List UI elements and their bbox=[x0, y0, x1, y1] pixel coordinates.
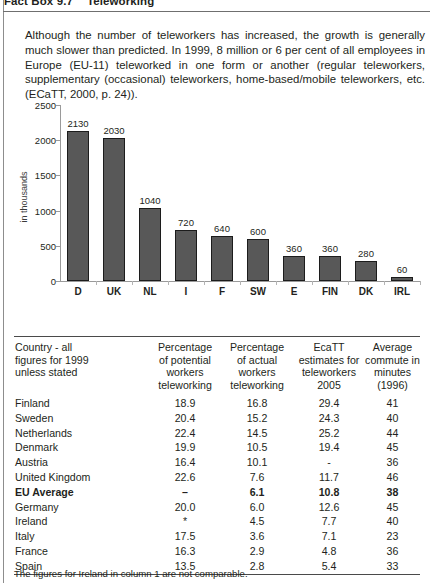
factbox-label: Fact Box 9.7 bbox=[4, 0, 73, 7]
bar-group: 280 bbox=[348, 105, 384, 281]
bar-dk bbox=[355, 261, 377, 281]
table-row: United Kingdom22.67.611.746 bbox=[14, 470, 420, 485]
bar-value-label: 640 bbox=[204, 223, 240, 234]
estimate-2005: 5.4 bbox=[293, 559, 365, 574]
avg-commute: 46 bbox=[365, 470, 420, 485]
avg-commute: 36 bbox=[365, 544, 420, 559]
actual-pct: 7.6 bbox=[221, 470, 293, 485]
col-header-line: (1996) bbox=[365, 379, 420, 392]
bar-value-label: 1040 bbox=[132, 195, 168, 206]
estimate-2005: 10.8 bbox=[293, 485, 365, 500]
bar-value-label: 60 bbox=[384, 264, 420, 275]
avg-commute: 36 bbox=[365, 456, 420, 471]
bar-f bbox=[211, 236, 233, 281]
x-label-fin: FIN bbox=[312, 286, 348, 297]
x-label-f: F bbox=[204, 286, 240, 297]
bar-group: 2030 bbox=[96, 105, 132, 281]
x-axis-tick bbox=[168, 281, 169, 285]
potential-pct: * bbox=[149, 515, 221, 530]
potential-pct: – bbox=[149, 485, 221, 500]
col-header-line: figures for 1999 bbox=[15, 354, 149, 367]
actual-pct: 10.1 bbox=[221, 456, 293, 471]
estimate-2005: 4.8 bbox=[293, 544, 365, 559]
table-row: Sweden20.415.224.340 bbox=[14, 411, 420, 426]
col-header-line: commute in bbox=[365, 354, 420, 367]
x-label-uk: UK bbox=[96, 286, 132, 297]
table-row: EU Average–6.110.838 bbox=[14, 485, 420, 500]
x-axis-tick bbox=[384, 281, 385, 285]
bar-value-label: 600 bbox=[240, 226, 276, 237]
bar-group: 600 bbox=[240, 105, 276, 281]
intro-paragraph: Although the number of teleworkers has i… bbox=[25, 28, 425, 101]
x-label-dk: DK bbox=[348, 286, 384, 297]
y-axis-tick bbox=[56, 105, 60, 106]
table-header-row: Country - allfigures for 1999unless stat… bbox=[14, 337, 420, 396]
actual-pct: 16.8 bbox=[221, 396, 293, 411]
factbox-header: Fact Box 9.7Teleworking bbox=[0, 0, 430, 11]
y-axis-tick bbox=[56, 211, 60, 212]
col-header-line: Country - all bbox=[15, 341, 149, 354]
avg-commute: 38 bbox=[365, 485, 420, 500]
country-name: Austria bbox=[14, 456, 149, 471]
table-row: Denmark19.910.519.445 bbox=[14, 441, 420, 456]
table-col-header-1: Percentageof potentialworkersteleworking bbox=[149, 337, 221, 396]
table-data: Country - allfigures for 1999unless stat… bbox=[14, 337, 420, 574]
estimate-2005: 7.1 bbox=[293, 529, 365, 544]
col-header-line: of potential bbox=[149, 354, 221, 367]
potential-pct: 19.9 bbox=[149, 441, 221, 456]
x-label-sw: SW bbox=[240, 286, 276, 297]
table-header: Country - allfigures for 1999unless stat… bbox=[14, 337, 420, 396]
col-header-line: 2005 bbox=[293, 379, 365, 392]
table-row: Netherlands22.414.525.244 bbox=[14, 426, 420, 441]
plot-area: 21302030104072064060036036028060 bbox=[60, 105, 420, 281]
table-row: Austria16.410.1-36 bbox=[14, 456, 420, 471]
bar-fin bbox=[319, 256, 341, 281]
x-label-d: D bbox=[60, 286, 96, 297]
y-tick-label: 1500 bbox=[35, 170, 56, 181]
table-row: Ireland*4.57.740 bbox=[14, 515, 420, 530]
potential-pct: 22.4 bbox=[149, 426, 221, 441]
estimate-2005: 12.6 bbox=[293, 500, 365, 515]
bar-uk bbox=[103, 138, 125, 281]
bar-value-label: 2130 bbox=[60, 118, 96, 129]
actual-pct: 2.9 bbox=[221, 544, 293, 559]
factbox-title: Fact Box 9.7Teleworking bbox=[4, 0, 154, 7]
bar-group: 640 bbox=[204, 105, 240, 281]
teleworkers-bar-chart: in thousands 05001000150020002500 213020… bbox=[0, 96, 430, 311]
estimate-2005: 29.4 bbox=[293, 396, 365, 411]
x-axis-tick bbox=[420, 281, 421, 285]
y-axis-tick-labels: 05001000150020002500 bbox=[10, 96, 56, 281]
bar-value-label: 360 bbox=[276, 243, 312, 254]
bar-group: 60 bbox=[384, 105, 420, 281]
table-col-header-3: EcaTTestimates forteleworkers2005 bbox=[293, 337, 365, 396]
col-header-line: workers bbox=[149, 366, 221, 379]
col-header-line: of actual bbox=[221, 354, 293, 367]
y-axis-tick bbox=[56, 140, 60, 141]
col-header-line: unless stated bbox=[15, 366, 149, 379]
estimate-2005: - bbox=[293, 456, 365, 471]
header-divider bbox=[3, 11, 430, 12]
y-axis-tick bbox=[56, 175, 60, 176]
bar-group: 360 bbox=[276, 105, 312, 281]
avg-commute: 41 bbox=[365, 396, 420, 411]
estimate-2005: 25.2 bbox=[293, 426, 365, 441]
estimate-2005: 11.7 bbox=[293, 470, 365, 485]
teleworking-table: Country - allfigures for 1999unless stat… bbox=[14, 336, 420, 575]
bar-value-label: 360 bbox=[312, 243, 348, 254]
actual-pct: 6.1 bbox=[221, 485, 293, 500]
x-axis-tick bbox=[276, 281, 277, 285]
avg-commute: 40 bbox=[365, 515, 420, 530]
x-label-i: I bbox=[168, 286, 204, 297]
potential-pct: 20.4 bbox=[149, 411, 221, 426]
col-header-line: teleworking bbox=[221, 379, 293, 392]
country-name: France bbox=[14, 544, 149, 559]
potential-pct: 16.3 bbox=[149, 544, 221, 559]
bar-value-label: 720 bbox=[168, 217, 204, 228]
estimate-2005: 19.4 bbox=[293, 441, 365, 456]
table-col-header-0: Country - allfigures for 1999unless stat… bbox=[14, 337, 149, 396]
potential-pct: 18.9 bbox=[149, 396, 221, 411]
country-name: Denmark bbox=[14, 441, 149, 456]
x-label-irl: IRL bbox=[384, 286, 420, 297]
bar-value-label: 280 bbox=[348, 248, 384, 259]
col-header-line: teleworkers bbox=[293, 366, 365, 379]
